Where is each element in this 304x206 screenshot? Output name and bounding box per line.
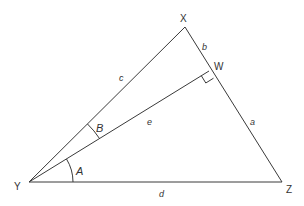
- vertex-label-w: W: [214, 61, 224, 72]
- angle-label-b: B: [96, 122, 103, 134]
- vertex-label-y: Y: [14, 181, 21, 192]
- vertex-label-x: X: [180, 13, 187, 24]
- vertex-label-z: Z: [286, 184, 292, 195]
- angle-label-a: A: [75, 165, 83, 177]
- side-xz: [185, 27, 282, 182]
- segment-label-b: b: [202, 42, 207, 52]
- segment-label-a: a: [250, 117, 255, 127]
- segment-label-d: d: [159, 189, 165, 199]
- right-angle-marker: [201, 76, 213, 83]
- segment-yw: [29, 71, 209, 182]
- side-xy: [29, 27, 185, 182]
- angle-arc-a: [67, 159, 74, 182]
- triangle-diagram: X Y Z W c b a e d B A: [0, 0, 304, 206]
- segment-label-e: e: [147, 117, 152, 127]
- segment-label-c: c: [119, 73, 124, 83]
